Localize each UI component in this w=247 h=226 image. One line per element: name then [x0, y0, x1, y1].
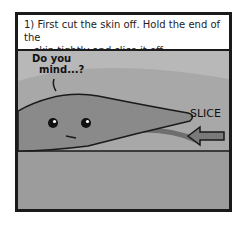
- caption-line-1: 1) First cut the skin off. Hold the end …: [24, 18, 223, 44]
- caption-box: 1) First cut the skin off. Hold the end …: [18, 15, 229, 51]
- slice-label: SLICE: [190, 107, 221, 120]
- speech-text: Do you mind...?: [32, 53, 84, 75]
- comic-panel: 1) First cut the skin off. Hold the end …: [15, 12, 232, 212]
- speech-line-1: Do you: [32, 53, 84, 64]
- illustration: Do you mind...? SLICE: [18, 51, 229, 209]
- speech-line-2: mind...?: [32, 64, 84, 75]
